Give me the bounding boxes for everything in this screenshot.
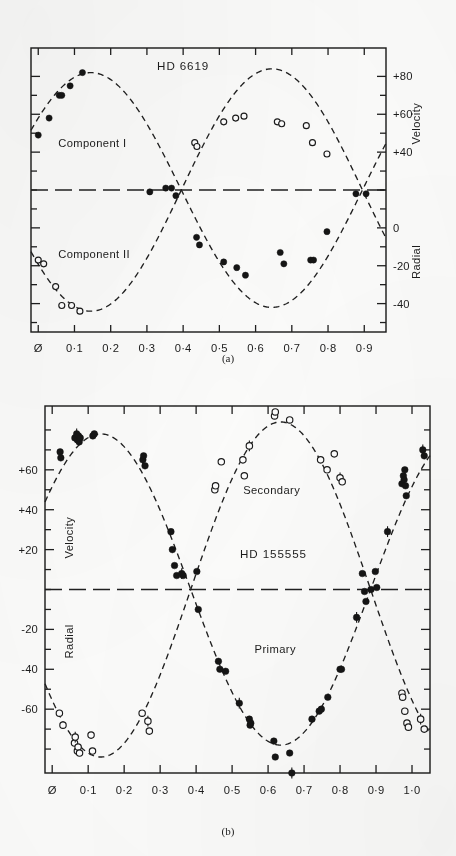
- data-point-filled: [309, 716, 316, 723]
- data-point-filled: [147, 189, 153, 195]
- panel-a-ytick-label: -40: [393, 298, 410, 310]
- data-point-filled: [168, 528, 175, 535]
- data-point-filled: [140, 453, 147, 460]
- panel-b-yaxis-title-radial: Radial: [63, 624, 75, 658]
- panel-b-plot: Ø0·10·20·30·40·50·60·70·80·91·0+60+40+20…: [0, 398, 456, 828]
- data-point-open: [317, 457, 323, 463]
- panel-a-series-label-component-1: Component I: [58, 137, 126, 149]
- data-point-filled: [196, 242, 202, 248]
- data-point-open: [77, 308, 83, 314]
- data-point-filled: [57, 449, 64, 456]
- data-point-open: [72, 734, 78, 740]
- panel-b-series-label-primary: Primary: [255, 643, 296, 655]
- data-point-open: [76, 750, 82, 756]
- data-point-filled: [77, 435, 84, 442]
- data-point-filled: [46, 115, 52, 121]
- panel-b-xtick-label: 0·8: [332, 784, 349, 796]
- panel-b-xtick-label: 0·1: [80, 784, 97, 796]
- panel-a-plot: Ø0·10·20·30·40·50·60·70·80·9+80+60+400-2…: [0, 34, 456, 394]
- panel-b-radial-velocity-curve: Ø0·10·20·30·40·50·60·70·80·91·0+60+40+20…: [0, 398, 456, 856]
- data-point-open: [139, 710, 145, 716]
- data-point-open: [286, 417, 292, 423]
- data-point-filled: [402, 467, 409, 474]
- panel-b-xtick-label: 0·2: [116, 784, 133, 796]
- data-point-open: [309, 140, 315, 146]
- panel-b-xtick-label: 0·6: [260, 784, 277, 796]
- data-point-filled: [236, 700, 243, 707]
- data-point-open: [69, 302, 75, 308]
- data-point-filled: [401, 476, 408, 483]
- data-point-open: [405, 724, 411, 730]
- data-point-open: [272, 409, 278, 415]
- data-point-filled: [310, 257, 316, 263]
- data-point-filled: [59, 92, 65, 98]
- data-point-open: [35, 257, 41, 263]
- panel-a-series-label-component-2: Component II: [58, 248, 130, 260]
- panel-b-star-name: HD 155555: [240, 547, 307, 560]
- data-point-open: [399, 694, 405, 700]
- data-point-filled: [163, 185, 169, 191]
- data-point-open: [146, 728, 152, 734]
- panel-a-radial-velocity-curve: Ø0·10·20·30·40·50·60·70·80·9+80+60+400-2…: [0, 34, 456, 394]
- panel-b-yaxis-title-velocity: Velocity: [63, 517, 75, 559]
- panel-b-ytick-label: +40: [18, 504, 38, 516]
- data-point-filled: [372, 568, 379, 575]
- data-point-filled: [363, 191, 369, 197]
- data-point-filled: [277, 249, 283, 255]
- data-point-open: [221, 119, 227, 125]
- panel-a-star-name: HD 6619: [157, 59, 209, 72]
- data-point-open: [194, 143, 200, 149]
- data-point-open: [233, 115, 239, 121]
- data-point-filled: [234, 265, 240, 271]
- panel-a-ytick-label: +40: [393, 146, 413, 158]
- data-point-filled: [421, 453, 428, 460]
- panel-b-xtick-label: Ø: [48, 784, 57, 796]
- data-point-open: [421, 726, 427, 732]
- data-point-filled: [325, 694, 332, 701]
- data-point-filled: [195, 606, 202, 613]
- panel-b-xtick-label: 0·7: [296, 784, 313, 796]
- panel-b-ytick-label: -60: [21, 703, 38, 715]
- panel-a-ytick-label: -20: [393, 260, 410, 272]
- panel-b-ytick-label: +60: [18, 464, 38, 476]
- panel-b-ytick-label: +20: [18, 544, 38, 556]
- panel-b-xtick-label: 0·4: [188, 784, 205, 796]
- figure-page: Ø0·10·20·30·40·50·60·70·80·9+80+60+400-2…: [0, 0, 456, 856]
- panel-b-series-label-secondary: Secondary: [243, 484, 300, 496]
- panel-a-ytick-label: +80: [393, 70, 413, 82]
- data-point-open: [88, 732, 94, 738]
- data-point-open: [303, 123, 309, 129]
- panel-b-ytick-label: -20: [21, 623, 38, 635]
- data-point-filled: [289, 770, 296, 777]
- data-point-filled: [242, 272, 248, 278]
- data-point-filled: [359, 570, 366, 577]
- data-point-filled: [173, 193, 179, 199]
- panel-b-ytick-label: -40: [21, 663, 38, 675]
- data-point-filled: [221, 259, 227, 265]
- panel-b-xtick-label: 1·0: [404, 784, 421, 796]
- data-point-open: [279, 121, 285, 127]
- panel-a-points-component-1: [35, 70, 369, 279]
- data-point-filled: [35, 132, 41, 138]
- data-point-filled: [222, 668, 229, 675]
- panel-a-ytick-label: 0: [393, 222, 399, 234]
- data-point-open: [89, 748, 95, 754]
- data-point-filled: [353, 191, 359, 197]
- panel-b-caption: (b): [0, 825, 456, 837]
- data-point-filled: [180, 572, 187, 579]
- data-point-filled: [248, 720, 255, 727]
- data-point-filled: [79, 70, 85, 76]
- data-point-filled: [171, 562, 178, 569]
- data-point-open: [417, 716, 423, 722]
- data-point-open: [331, 451, 337, 457]
- data-point-open: [41, 261, 47, 267]
- data-point-filled: [194, 568, 201, 575]
- data-point-filled: [373, 584, 380, 591]
- data-point-filled: [363, 598, 370, 605]
- panel-b-points-primary: [57, 429, 428, 779]
- data-point-open: [212, 483, 218, 489]
- data-point-filled: [193, 234, 199, 240]
- data-point-filled: [58, 455, 65, 462]
- data-point-filled: [403, 492, 410, 499]
- data-point-filled: [271, 738, 278, 745]
